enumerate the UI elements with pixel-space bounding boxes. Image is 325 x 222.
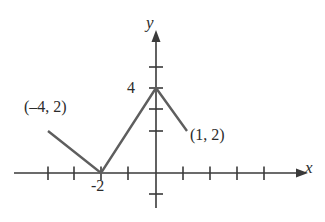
point-label-right-endpoint: (1, 2) (190, 127, 225, 143)
function-graph-line (48, 88, 187, 173)
y-axis-label: y (146, 14, 154, 31)
x-axis-label: x (305, 159, 313, 176)
graph-figure: y x 4 -2 (–4, 2) (1, 2) (0, 0, 325, 222)
y-tick-label-4: 4 (127, 80, 135, 96)
point-label-left-endpoint: (–4, 2) (24, 99, 67, 115)
x-tick-label-minus-2: -2 (91, 178, 104, 194)
